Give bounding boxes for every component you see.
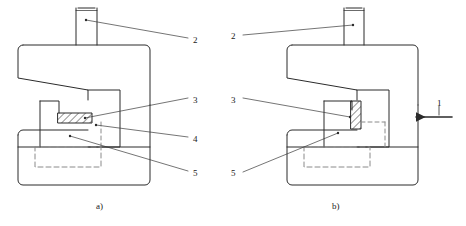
callout-label-3-right: 3 xyxy=(231,95,236,105)
view-b-assembly xyxy=(243,8,452,185)
view-a-assembly xyxy=(18,8,188,185)
callout-label-5-right: 5 xyxy=(231,168,236,178)
view-a-upper-frame-arm xyxy=(18,45,150,105)
callout-label-4-left: 4 xyxy=(193,134,198,144)
caption-a: a) xyxy=(96,201,103,211)
caption-b: b) xyxy=(332,201,340,211)
view-a-inner-column xyxy=(88,90,120,147)
callout-label-1-force: 1 xyxy=(437,98,442,108)
view-b-hidden-cavity-dashed xyxy=(304,122,385,167)
callout-label-3-left: 3 xyxy=(193,95,198,105)
view-a-leader-lines xyxy=(69,19,188,171)
view-b-inner-column xyxy=(357,90,389,147)
technical-diagram-figure: a) b) 2 3 4 5 2 3 5 1 xyxy=(0,0,466,226)
view-a-hatched-workpiece xyxy=(58,113,92,123)
view-a-left-jaw-block xyxy=(40,101,59,147)
view-a-ram-rod xyxy=(76,8,97,45)
callout-label-5-left: 5 xyxy=(193,168,198,178)
callout-label-2-right: 2 xyxy=(231,31,236,41)
view-b-ram-rod xyxy=(344,8,364,45)
view-a-hidden-cavity-dashed xyxy=(35,122,101,167)
callout-label-2-left: 2 xyxy=(193,35,198,45)
view-b-upper-frame-arm xyxy=(287,45,418,105)
force-arrow-group xyxy=(416,106,452,117)
view-b-hatched-workpiece xyxy=(351,101,361,129)
view-b-advanced-jaw-block xyxy=(324,101,352,147)
view-b-leader-lines xyxy=(243,24,354,172)
